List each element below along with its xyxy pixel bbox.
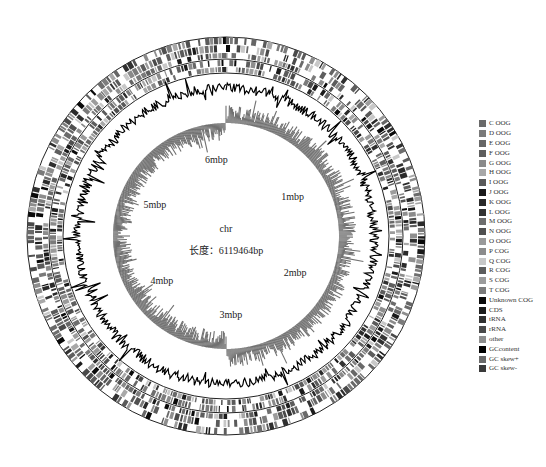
circos-genome-map — [0, 0, 546, 467]
legend-label: N OOG — [489, 227, 511, 236]
legend-label: Unknown COG — [489, 296, 533, 305]
legend-item: M OOG — [479, 217, 533, 227]
legend-label: CDS — [489, 306, 503, 315]
legend-label: G OOG — [489, 159, 511, 168]
genome-length: 长度：6119464bp — [189, 242, 264, 257]
legend-label: I OOG — [489, 178, 508, 187]
legend-item: O OOG — [479, 237, 533, 247]
legend-swatch — [479, 209, 486, 216]
legend-item: H OOG — [479, 168, 533, 178]
legend-swatch — [479, 199, 486, 206]
tick-label: 6mbp — [205, 153, 228, 164]
legend-label: E OOG — [489, 139, 510, 148]
legend-item: E OOG — [479, 139, 533, 149]
legend-label: tRNA — [489, 315, 506, 324]
legend-item: tRNA — [479, 315, 533, 325]
legend-swatch — [479, 365, 486, 372]
legend-swatch — [479, 356, 486, 363]
legend-item: R COG — [479, 266, 533, 276]
legend-swatch — [479, 326, 486, 333]
legend-label: Q COG — [489, 257, 511, 266]
legend-swatch — [479, 297, 486, 304]
legend-swatch — [479, 160, 486, 167]
legend-item: GC skew- — [479, 364, 533, 374]
legend-item: Q COG — [479, 256, 533, 266]
legend-swatch — [479, 287, 486, 294]
legend: C OOGD OOGE OOGF OOGG OOGH OOGI OOGJ OOG… — [479, 119, 533, 374]
legend-swatch — [479, 258, 486, 265]
legend-item: T COG — [479, 286, 533, 296]
legend-swatch — [479, 267, 486, 274]
legend-label: H OOG — [489, 168, 511, 177]
tick-label: 3mbp — [219, 308, 242, 319]
gc-skew-track — [113, 101, 363, 367]
legend-swatch — [479, 218, 486, 225]
legend-swatch — [479, 189, 486, 196]
legend-label: other — [489, 335, 503, 344]
legend-label: R COG — [489, 266, 510, 275]
legend-swatch — [479, 130, 486, 137]
legend-item: K OOG — [479, 197, 533, 207]
legend-swatch — [479, 277, 486, 284]
legend-label: P COG — [489, 247, 509, 256]
legend-item: J OOG — [479, 188, 533, 198]
legend-label: O OOG — [489, 237, 511, 246]
legend-item: S COG — [479, 276, 533, 286]
legend-item: Unknown COG — [479, 295, 533, 305]
tick-label: 2mbp — [284, 267, 307, 278]
legend-item: L OOG — [479, 207, 533, 217]
legend-item: F OOG — [479, 148, 533, 158]
legend-label: T COG — [489, 286, 510, 295]
legend-item: CDS — [479, 305, 533, 315]
chromosome-name: chr — [220, 223, 233, 234]
legend-item: P COG — [479, 246, 533, 256]
legend-swatch — [479, 316, 486, 323]
legend-label: D OOG — [489, 129, 511, 138]
legend-item: GCcontent — [479, 344, 533, 354]
legend-swatch — [479, 179, 486, 186]
legend-item: D OOG — [479, 129, 533, 139]
legend-swatch — [479, 238, 486, 245]
legend-label: GC skew- — [489, 364, 517, 373]
legend-swatch — [479, 169, 486, 176]
tick-label: 5mbp — [143, 199, 166, 210]
legend-swatch — [479, 150, 486, 157]
legend-label: GCcontent — [489, 345, 519, 354]
feature-tracks — [27, 37, 425, 435]
legend-item: C OOG — [479, 119, 533, 129]
legend-item: I OOG — [479, 178, 533, 188]
legend-label: GC skew+ — [489, 355, 519, 364]
tick-label: 1mbp — [281, 190, 304, 201]
legend-swatch — [479, 307, 486, 314]
legend-item: GC skew+ — [479, 354, 533, 364]
legend-item: rRNA — [479, 325, 533, 335]
legend-swatch — [479, 140, 486, 147]
legend-item: G OOG — [479, 158, 533, 168]
legend-swatch — [479, 248, 486, 255]
legend-label: M OOG — [489, 217, 512, 226]
legend-label: C OOG — [489, 119, 511, 128]
legend-label: rRNA — [489, 325, 506, 334]
legend-item: N OOG — [479, 227, 533, 237]
legend-label: L OOG — [489, 208, 510, 217]
legend-label: J OOG — [489, 188, 509, 197]
legend-swatch — [479, 346, 486, 353]
legend-item: other — [479, 335, 533, 345]
legend-swatch — [479, 120, 486, 127]
legend-label: K OOG — [489, 198, 511, 207]
legend-swatch — [479, 336, 486, 343]
legend-swatch — [479, 228, 486, 235]
legend-label: S COG — [489, 276, 509, 285]
legend-label: F OOG — [489, 149, 510, 158]
tick-label: 4mbp — [150, 275, 173, 286]
